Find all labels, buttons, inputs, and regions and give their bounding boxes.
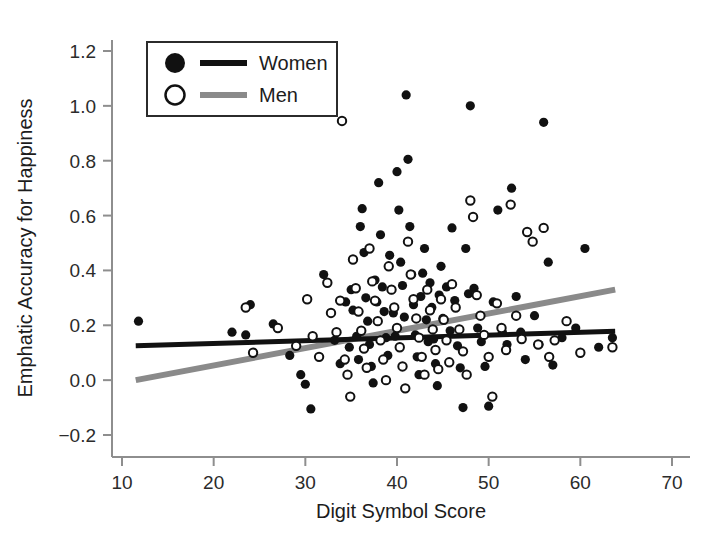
data-point-women: [507, 184, 516, 193]
data-point-women: [418, 269, 427, 278]
data-point-women: [436, 262, 445, 271]
data-point-men: [292, 342, 300, 350]
data-point-men: [437, 295, 445, 303]
data-point-men: [423, 285, 431, 293]
data-point-men: [608, 343, 616, 351]
x-tick-label: 20: [203, 472, 224, 493]
x-tick-label: 40: [386, 472, 407, 493]
data-point-women: [358, 204, 367, 213]
data-point-men: [476, 311, 484, 319]
data-point-women: [544, 258, 553, 267]
plot-canvas: 10203040506070 −0.20.00.20.40.60.81.01.2…: [0, 0, 723, 547]
y-tick-label: 0.4: [70, 260, 97, 281]
data-point-men: [473, 291, 481, 299]
data-point-men: [534, 340, 542, 348]
data-point-men: [459, 347, 467, 355]
data-point-women: [539, 118, 548, 127]
data-point-women: [376, 230, 385, 239]
data-point-women: [447, 223, 456, 232]
x-tick-label: 70: [661, 472, 682, 493]
data-point-women: [521, 355, 530, 364]
data-point-men: [462, 370, 470, 378]
data-point-men: [274, 324, 282, 332]
data-point-men: [343, 370, 351, 378]
data-point-men: [382, 376, 390, 384]
data-point-women: [356, 222, 365, 231]
data-point-men: [387, 285, 395, 293]
data-point-men: [303, 295, 311, 303]
x-tick-label: 30: [295, 472, 316, 493]
data-point-women: [608, 333, 617, 342]
data-point-women: [403, 155, 412, 164]
data-point-men: [562, 317, 570, 325]
data-point-women: [363, 317, 372, 326]
data-point-women: [400, 312, 409, 321]
data-point-men: [242, 303, 250, 311]
data-point-women: [480, 362, 489, 371]
data-point-men: [434, 365, 442, 373]
y-tick-label: 1.0: [70, 96, 96, 117]
chart-legend: Women Men: [147, 42, 337, 116]
data-point-men: [497, 324, 505, 332]
data-point-men: [398, 362, 406, 370]
data-point-women: [458, 403, 467, 412]
data-point-men: [346, 392, 354, 400]
data-point-men: [539, 224, 547, 232]
data-point-men: [376, 336, 384, 344]
data-point-men: [480, 331, 488, 339]
data-point-women: [285, 351, 294, 360]
data-point-women: [392, 167, 401, 176]
data-point-women: [461, 244, 470, 253]
data-point-women: [361, 293, 370, 302]
data-point-women: [466, 101, 475, 110]
data-point-women: [530, 311, 539, 320]
x-axis-ticks: 10203040506070: [111, 457, 682, 493]
data-point-men: [488, 392, 496, 400]
data-point-men: [426, 306, 434, 314]
data-point-men: [431, 346, 439, 354]
y-tick-label: 1.2: [70, 41, 96, 62]
data-point-women: [422, 315, 431, 324]
data-point-men: [393, 324, 401, 332]
data-point-men: [352, 284, 360, 292]
y-tick-label: 0.0: [70, 370, 96, 391]
data-point-men: [354, 307, 362, 315]
data-point-women: [402, 90, 411, 99]
data-point-men: [396, 343, 404, 351]
data-point-men: [528, 237, 536, 245]
data-point-women: [394, 205, 403, 214]
y-tick-label: −0.2: [58, 425, 96, 446]
data-point-men: [360, 344, 368, 352]
data-point-men: [365, 244, 373, 252]
data-point-women: [396, 258, 405, 267]
data-point-women: [380, 307, 389, 316]
data-point-women: [301, 380, 310, 389]
data-point-men: [493, 299, 501, 307]
data-point-men: [415, 333, 423, 341]
data-point-women: [512, 292, 521, 301]
data-point-men: [506, 200, 514, 208]
data-point-women: [493, 205, 502, 214]
x-axis-title: Digit Symbol Score: [316, 500, 486, 522]
x-tick-label: 50: [478, 472, 499, 493]
scatter-plot-figure: 10203040506070 −0.20.00.20.40.60.81.01.2…: [0, 0, 723, 547]
data-point-women: [398, 281, 407, 290]
data-point-women: [594, 343, 603, 352]
data-point-women: [378, 282, 387, 291]
data-point-women: [374, 178, 383, 187]
data-point-men: [440, 316, 448, 324]
data-point-women: [369, 378, 378, 387]
legend-label-men: Men: [259, 84, 298, 106]
data-point-women: [405, 222, 414, 231]
data-point-men: [338, 117, 346, 125]
data-point-men: [407, 270, 415, 278]
data-point-women: [433, 381, 442, 390]
data-point-men: [363, 364, 371, 372]
data-point-men: [349, 255, 357, 263]
data-point-men: [517, 335, 525, 343]
data-point-men: [323, 279, 331, 287]
data-point-women: [580, 244, 589, 253]
data-point-men: [502, 346, 510, 354]
data-point-men: [336, 296, 344, 304]
data-point-men: [401, 384, 409, 392]
